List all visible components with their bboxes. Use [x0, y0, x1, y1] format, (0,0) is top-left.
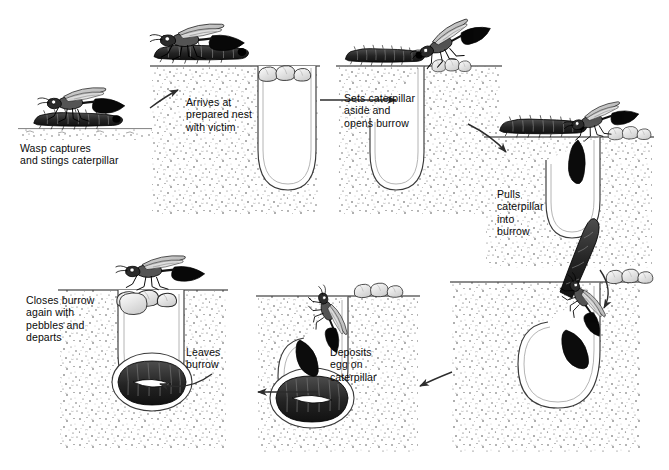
- wasp-lifecycle-illustration: [0, 0, 669, 470]
- caption-arrives-at-nest: Arrives at prepared nest with victim: [186, 96, 252, 133]
- diagram-canvas: Wasp captures and stings caterpillar Arr…: [0, 0, 669, 470]
- caption-deposits-egg: Deposits egg on caterpillar: [330, 346, 377, 383]
- caption-pulls-caterpillar-into-burrow: Pulls caterpillar into burrow: [497, 188, 544, 238]
- caption-leaves-burrow: Leaves burrow: [186, 346, 220, 371]
- caption-sets-caterpillar-aside: Sets caterpillar aside and opens burrow: [344, 92, 415, 129]
- caption-wasp-captures: Wasp captures and stings caterpillar: [20, 142, 119, 167]
- caption-closes-burrow: Closes burrow again with pebbles and dep…: [26, 294, 94, 344]
